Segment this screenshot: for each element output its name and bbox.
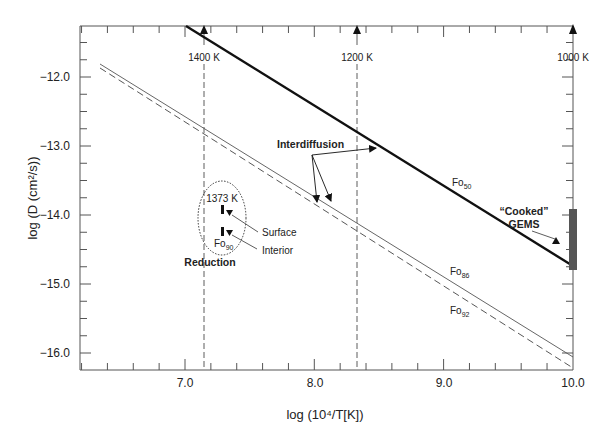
fo86-label: Fo86 [450,266,470,279]
surface-point-bar [221,205,224,214]
marker-1200k-label: 1200 K [341,52,373,63]
y-tick-label: −14.0 [40,208,71,222]
surface-label: Surface [262,227,297,238]
y-tick-label: −15.0 [40,277,71,291]
marker-1400k-label: 1400 K [188,52,220,63]
fo90-label: Fo90 [214,238,234,251]
interdiffusion-label: Interdiffusion [277,138,344,150]
cooked-gems-bar [569,209,577,270]
series-fo50-line [186,26,573,266]
x-tick-label: 8.0 [307,376,324,390]
series-lines [100,26,573,368]
interior-label: Interior [262,245,294,256]
x-tick-label: 9.0 [436,376,453,390]
interior-point-bar [221,227,224,236]
cooked-gems-label-line2: GEMS [509,218,540,230]
axis-ticks [80,26,573,370]
marker-1000k-label: 1000 K [557,52,589,63]
diffusion-arrhenius-chart: −12.0 −13.0 −14.0 −15.0 −16.0 7.0 8.0 9.… [0,0,605,443]
x-axis-title: log (10⁴/T[K]) [286,407,363,422]
y-tick-label: −12.0 [40,70,71,84]
series-fo92-line [100,68,573,368]
x-axis-tick-labels: 7.0 8.0 9.0 10.0 [177,376,585,390]
y-axis-title: log (D (cm²/s)) [25,156,40,239]
cooked-gems-label-line1: “Cooked” [499,205,548,217]
plot-frame [80,26,573,370]
fo50-label: Fo50 [452,177,472,190]
y-tick-label: −13.0 [40,139,71,153]
series-labels: Fo50 Fo86 Fo92 [450,177,472,318]
reduction-label: Reduction [184,256,235,268]
reduction-annotation: 1373 K Fo90 Surface Interior Reduction [184,181,297,268]
y-tick-label: −16.0 [40,346,71,360]
reduction-temperature-label: 1373 K [206,193,238,204]
interdiffusion-annotation: Interdiffusion [277,138,376,202]
y-axis-tick-labels: −12.0 −13.0 −14.0 −15.0 −16.0 [40,70,71,360]
temperature-markers: 1400 K 1200 K 1000 K [188,24,589,370]
fo92-label: Fo92 [450,305,470,318]
x-tick-label: 7.0 [177,376,194,390]
x-tick-label: 10.0 [561,376,585,390]
